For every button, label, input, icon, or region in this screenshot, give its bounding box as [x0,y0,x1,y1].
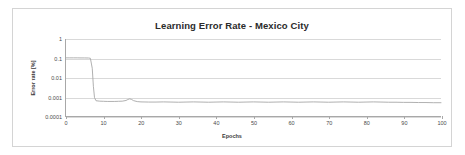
x-axis-tick-label: 70 [326,120,332,126]
y-axis-tick-label: 1 [59,36,62,42]
x-axis-tick-label: 10 [101,120,107,126]
x-axis-tick-mark [179,116,180,119]
x-axis-tick-label: 30 [176,120,182,126]
y-axis-tick-label: 0.0001 [45,114,62,120]
x-axis-tick-mark [141,116,142,119]
series-line-error-rate [66,39,441,116]
x-axis-tick-label: 40 [213,120,219,126]
x-axis-tick-mark [216,116,217,119]
chart-title: Learning Error Rate - Mexico City [13,20,451,31]
x-axis-tick-mark [404,116,405,119]
x-axis-tick-mark [66,116,67,119]
plot-area: 10.10.010.0010.0001 01020304050607080901… [65,39,441,117]
y-axis-tick-label: 0.01 [51,75,62,81]
x-axis-tick-mark [254,116,255,119]
x-axis-tick-label: 90 [401,120,407,126]
y-axis-tick-label: 0.1 [54,56,62,62]
y-axis-tick-label: 0.001 [48,95,62,101]
x-axis-tick-mark [329,116,330,119]
x-axis-tick-label: 20 [138,120,144,126]
x-axis-tick-label: 50 [251,120,257,126]
x-axis-title: Epochs [13,133,451,139]
x-axis-tick-mark [104,116,105,119]
x-axis-tick-label: 80 [364,120,370,126]
x-axis-tick-label: 100 [437,120,446,126]
x-axis-tick-label: 60 [289,120,295,126]
x-axis-tick-mark [442,116,443,119]
x-axis-tick-label: 0 [64,120,67,126]
x-axis-tick-mark [292,116,293,119]
chart-figure: Learning Error Rate - Mexico City Error … [12,8,452,147]
x-axis-tick-mark [367,116,368,119]
y-axis-title: Error rate [%] [30,60,36,95]
